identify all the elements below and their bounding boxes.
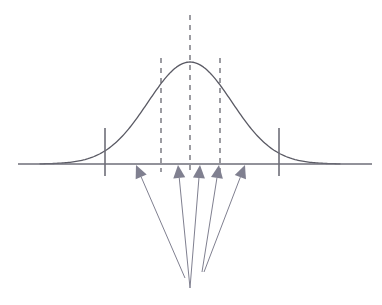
normal-distribution-diagram: [0, 0, 382, 305]
pointer-arrows-group: [136, 165, 246, 288]
pointer-arrow-4: [202, 165, 223, 272]
pointer-arrow-2-head: [173, 165, 185, 179]
dashed-reference-lines-group: [161, 15, 220, 172]
pointer-arrow-3-shaft: [190, 178, 199, 288]
pointer-arrow-4-head: [211, 165, 223, 179]
pointer-arrow-1: [136, 165, 185, 278]
pointer-arrow-1-shaft: [141, 177, 185, 278]
pointer-arrow-2-shaft: [179, 178, 190, 288]
pointer-arrow-3-head: [193, 165, 205, 178]
boundary-ticks-group: [105, 128, 279, 176]
diagram-canvas: [0, 0, 382, 305]
